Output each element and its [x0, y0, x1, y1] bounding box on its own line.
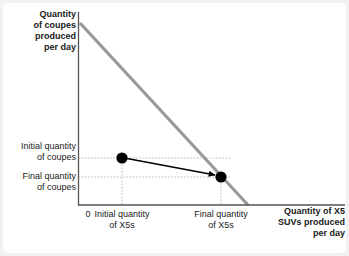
movement-arrow	[127, 159, 215, 176]
initial-production-point	[116, 152, 127, 163]
x-tick-label-initial-x5s: Initial quantity of X5s	[78, 209, 166, 231]
final-production-point	[215, 171, 226, 182]
axis-lines	[78, 12, 345, 206]
guide-lines	[78, 158, 230, 205]
y-tick-label-initial-coupes: Initial quantity of coupes	[2, 141, 76, 163]
x-axis-title: Quantity of X5 SUVs produced per day	[263, 206, 345, 239]
x-tick-label-final-x5s: Final quantity of X5s	[178, 209, 264, 231]
y-tick-label-final-coupes: Final quantity of coupes	[2, 171, 76, 193]
y-axis-title: Quantity of coupes produced per day	[6, 9, 76, 53]
